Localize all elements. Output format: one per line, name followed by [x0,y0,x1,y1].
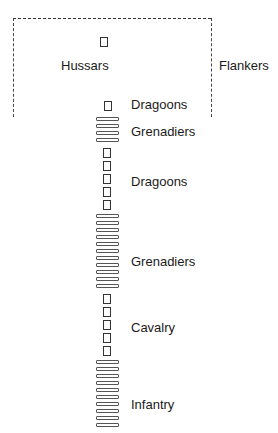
dragoons-unit-square [103,161,111,171]
dragoons-label-1: Dragoons [131,97,187,112]
cavalry-unit-square [103,307,111,317]
grenadiers-unit-bar [96,277,119,281]
hussars-unit-square [100,37,108,47]
infantry-unit-bar [96,374,119,378]
grenadiers-unit-bar [96,131,119,135]
grenadiers-unit-bar [96,242,119,246]
dragoons-label-2: Dragoons [131,174,187,189]
flankers-label: Flankers [219,58,269,73]
grenadiers-unit-bar [96,270,119,274]
grenadiers-unit-bar [96,117,119,121]
cavalry-label: Cavalry [131,320,175,335]
grenadiers-label-2: Grenadiers [131,254,195,269]
screen-box-right-edge [211,18,212,117]
infantry-unit-bar [96,423,119,427]
grenadiers-label-1: Grenadiers [131,124,195,139]
infantry-unit-bar [96,388,119,392]
infantry-unit-bar [96,416,119,420]
infantry-unit-bar [96,381,119,385]
cavalry-unit-square [103,333,111,343]
cavalry-unit-square [103,294,111,304]
infantry-unit-bar [96,367,119,371]
cavalry-unit-square [103,346,111,356]
screen-box-top-edge [13,18,211,19]
screen-box-left-edge [13,18,14,117]
grenadiers-unit-bar [96,138,119,142]
infantry-unit-bar [96,395,119,399]
grenadiers-unit-bar [96,124,119,128]
dragoons-unit-square [103,187,111,197]
grenadiers-unit-bar [96,221,119,225]
cavalry-unit-square [103,320,111,330]
grenadiers-unit-bar [96,214,119,218]
dragoons-unit-square [103,200,111,210]
grenadiers-unit-bar [96,249,119,253]
grenadiers-unit-bar [96,256,119,260]
dragoons-unit-square [103,148,111,158]
dragoons-unit-square [104,101,112,111]
infantry-unit-bar [96,409,119,413]
infantry-label: Infantry [131,397,174,412]
grenadiers-unit-bar [96,284,119,288]
infantry-unit-bar [96,360,119,364]
grenadiers-unit-bar [96,235,119,239]
dragoons-unit-square [103,174,111,184]
grenadiers-unit-bar [96,263,119,267]
grenadiers-unit-bar [96,228,119,232]
infantry-unit-bar [96,402,119,406]
hussars-label: Hussars [61,58,109,73]
